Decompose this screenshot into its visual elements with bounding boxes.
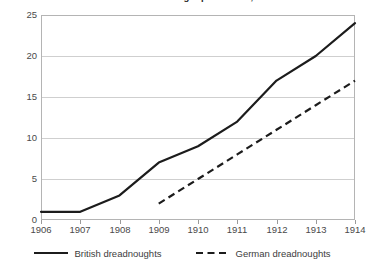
legend-swatch-dashed-icon <box>196 249 230 257</box>
chart-legend: British dreadnoughts German dreadnoughts <box>0 243 365 263</box>
legend-swatch-solid-icon <box>34 249 68 257</box>
legend-item-british: British dreadnoughts <box>34 248 161 259</box>
legend-item-german: German dreadnoughts <box>196 248 331 259</box>
series-line-german <box>159 81 355 204</box>
legend-label: British dreadnoughts <box>74 248 161 259</box>
series-line-british <box>41 23 355 212</box>
legend-label: German dreadnoughts <box>236 248 331 259</box>
